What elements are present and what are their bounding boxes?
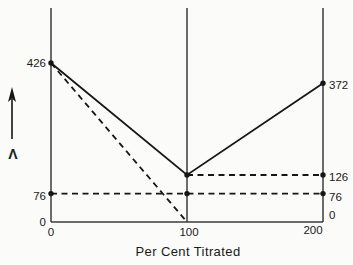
- x-tick-label-200: 200: [303, 224, 322, 236]
- data-point-0-76: [48, 191, 53, 196]
- y-axis-label-left-426: 426: [27, 57, 46, 69]
- data-point-200-372: [320, 81, 325, 86]
- data-point-100-76: [184, 191, 189, 196]
- titration-chart-figure: 4267603721267600100200 Λ Per Cent Titrat…: [0, 0, 353, 265]
- data-point-200-76: [320, 191, 325, 196]
- y-axis-arrow-icon: [8, 87, 16, 139]
- grid-layer: [51, 8, 323, 222]
- y-axis-label-right-0: 0: [329, 209, 335, 221]
- data-point-200-126: [320, 172, 325, 177]
- series-extrapolation-diagonal: [51, 63, 187, 222]
- y-axis-label-right-126: 126: [329, 171, 348, 183]
- y-axis-title: Λ: [8, 146, 18, 162]
- titration-chart-canvas: 4267603721267600100200 Λ Per Cent Titrat…: [0, 0, 353, 265]
- y-axis-label-right-76: 76: [329, 191, 342, 203]
- y-axis-label-left-76: 76: [33, 190, 46, 202]
- x-tick-label-0: 0: [48, 226, 54, 238]
- y-axis-label-left-0: 0: [40, 216, 46, 228]
- data-point-100-126: [184, 172, 189, 177]
- y-axis-label-right-372: 372: [329, 79, 348, 91]
- x-tick-label-100: 100: [179, 226, 198, 238]
- x-axis-title: Per Cent Titrated: [135, 244, 240, 259]
- data-point-0-426: [48, 60, 53, 65]
